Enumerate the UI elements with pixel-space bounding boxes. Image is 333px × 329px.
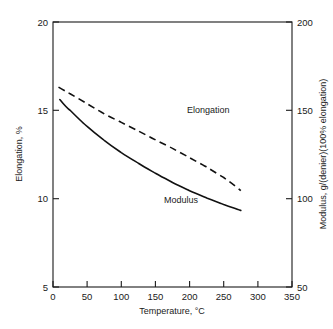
- left-tick-label-5: 5: [43, 282, 48, 293]
- x-tick-label-200: 200: [182, 291, 198, 302]
- right-tick-label-100: 100: [297, 193, 313, 204]
- annotation-modulus: Modulus: [164, 195, 199, 205]
- left-axis-ticks: [53, 22, 59, 287]
- x-tick-label-250: 250: [216, 291, 232, 302]
- x-tick-label-0: 0: [50, 291, 55, 302]
- x-tick-label-350: 350: [284, 291, 300, 302]
- x-tick-label-100: 100: [113, 291, 129, 302]
- annotation-elongation: Elongation: [187, 105, 230, 115]
- series-elongation-curve: [59, 87, 241, 191]
- y2-axis-title: Modulus, g/(denier)(100% elongation): [318, 79, 328, 230]
- right-tick-label-150: 150: [297, 105, 313, 116]
- left-tick-label-20: 20: [37, 17, 48, 28]
- right-axis-ticks: [286, 22, 292, 287]
- x-tick-label-150: 150: [147, 291, 163, 302]
- series-modulus-curve: [60, 100, 241, 211]
- y-axis-title: Elongation, %: [14, 126, 24, 182]
- x-tick-label-50: 50: [82, 291, 93, 302]
- x-tick-label-300: 300: [250, 291, 266, 302]
- chart-svg: 20 15 10 5 200 150 100 50 0 50 1: [0, 0, 333, 329]
- x-axis-title: Temperature, °C: [139, 306, 205, 316]
- left-tick-label-10: 10: [37, 193, 48, 204]
- left-tick-label-15: 15: [37, 105, 48, 116]
- plot-frame: [53, 22, 292, 287]
- x-axis-ticks: [53, 281, 292, 287]
- right-tick-label-200: 200: [297, 17, 313, 28]
- chart-figure: 20 15 10 5 200 150 100 50 0 50 1: [0, 0, 333, 329]
